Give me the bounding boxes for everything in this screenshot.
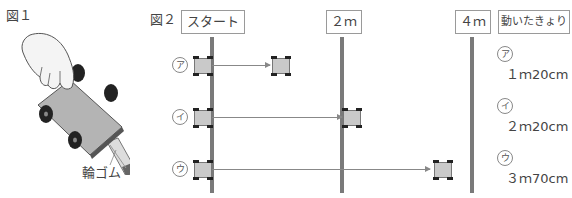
arrow-i-icon bbox=[212, 117, 342, 118]
rubber-band-label: 輪ゴム bbox=[82, 162, 121, 181]
arrow-a-icon bbox=[212, 65, 270, 66]
distance-a: １ｍ20cm bbox=[506, 64, 568, 83]
rubber-band-car-illustration bbox=[10, 25, 130, 175]
car-end-u-icon bbox=[434, 162, 452, 178]
start-header: スタート bbox=[181, 10, 245, 34]
car-end-a-icon bbox=[272, 58, 290, 74]
car-start-u-icon bbox=[194, 162, 212, 178]
marker-i: イ bbox=[172, 109, 188, 125]
distance-header: 動いたきょり bbox=[498, 10, 570, 34]
car-start-i-icon bbox=[194, 110, 212, 126]
two-meter-header: ２ｍ bbox=[326, 10, 362, 34]
four-meter-header: ４ｍ bbox=[455, 10, 491, 34]
arrow-u-icon bbox=[212, 169, 430, 170]
figure2-label: 図２ bbox=[150, 9, 176, 28]
distance-marker-i: イ bbox=[497, 98, 513, 114]
hand-icon bbox=[22, 33, 74, 89]
figure1-label: 図１ bbox=[6, 5, 32, 24]
car-start-a-icon bbox=[194, 58, 212, 74]
four-meter-line bbox=[470, 37, 474, 193]
distance-u: ３ｍ70cm bbox=[506, 168, 568, 187]
marker-a: ア bbox=[172, 57, 188, 73]
car-end-i-icon bbox=[343, 110, 361, 126]
distance-i: ２ｍ20cm bbox=[506, 116, 568, 135]
distance-marker-u: ウ bbox=[497, 150, 513, 166]
marker-u: ウ bbox=[172, 161, 188, 177]
distance-marker-a: ア bbox=[497, 46, 513, 62]
